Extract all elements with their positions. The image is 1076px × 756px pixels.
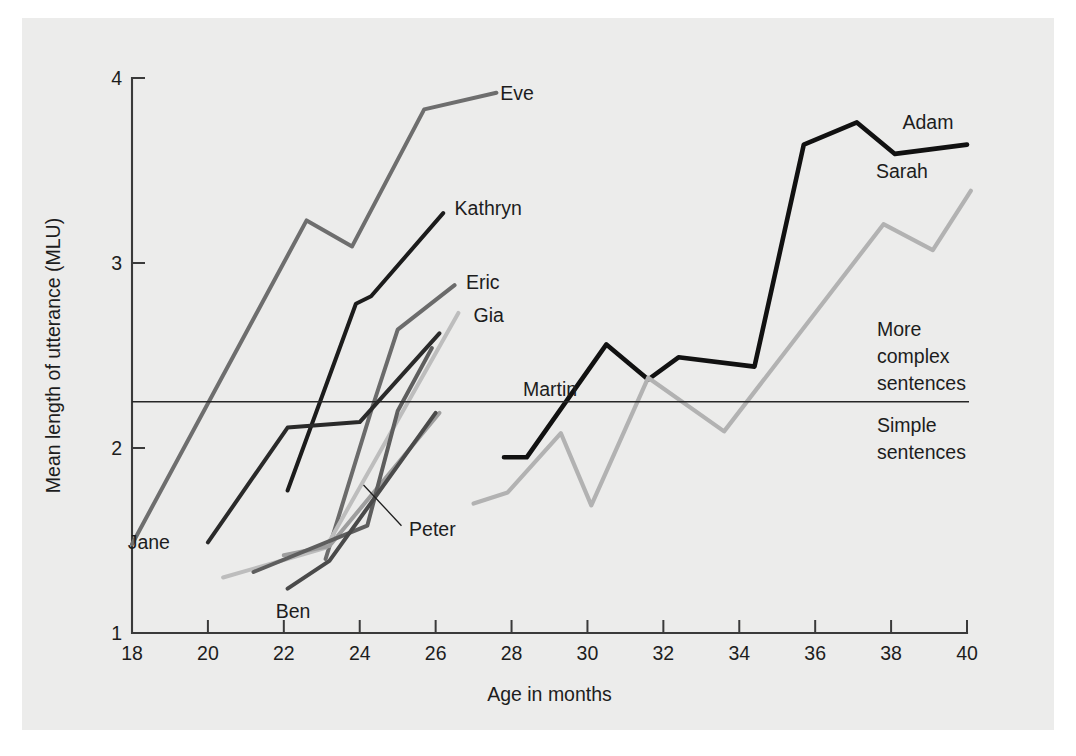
x-tick-label: 18: [121, 642, 143, 664]
series-group: [132, 93, 971, 589]
series-label-gia: Gia: [474, 304, 505, 326]
zone-label-above: More: [877, 318, 921, 340]
y-tick-label: 3: [111, 252, 122, 274]
series-label-sarah: Sarah: [876, 160, 928, 182]
x-tick-label: 34: [728, 642, 750, 664]
x-tick-label: 36: [804, 642, 826, 664]
series-label-adam: Adam: [902, 111, 953, 133]
series-line-jane: [208, 333, 440, 542]
series-line-kathryn: [288, 213, 444, 490]
x-tick-label: 28: [501, 642, 523, 664]
chart-plate: 1234182022242628303234363840Age in month…: [22, 18, 1054, 730]
x-tick-label: 32: [653, 642, 675, 664]
x-axis-title: Age in months: [487, 683, 612, 705]
series-label-kathryn: Kathryn: [455, 197, 522, 219]
chart-axes: [132, 78, 967, 633]
zone-label-below: Simple: [877, 414, 937, 436]
x-tick-label: 40: [956, 642, 978, 664]
series-label-peter: Peter: [409, 518, 456, 540]
series-label-martin: Martin: [523, 378, 577, 400]
figure-page: 1234182022242628303234363840Age in month…: [0, 0, 1076, 756]
x-tick-label: 26: [425, 642, 447, 664]
x-tick-label: 24: [349, 642, 371, 664]
y-tick-label: 4: [111, 67, 122, 89]
zone-label-above: sentences: [877, 372, 966, 394]
x-tick-label: 20: [197, 642, 219, 664]
axes-group: 1234182022242628303234363840Age in month…: [42, 67, 978, 705]
x-tick-label: 38: [880, 642, 902, 664]
series-line-peter: [254, 348, 432, 572]
y-axis-title: Mean length of utterance (MLU): [42, 218, 64, 493]
zone-label-below: sentences: [877, 441, 966, 463]
zone-label-above: complex: [877, 345, 950, 367]
x-tick-label: 30: [577, 642, 599, 664]
series-label-ben: Ben: [276, 600, 311, 622]
x-tick-label: 22: [273, 642, 295, 664]
series-label-eve: Eve: [500, 82, 534, 104]
y-tick-label: 1: [111, 622, 122, 644]
mlu-line-chart: 1234182022242628303234363840Age in month…: [22, 18, 1054, 730]
series-line-eve: [132, 93, 496, 544]
series-label-eric: Eric: [466, 271, 500, 293]
series-label-jane: Jane: [128, 531, 170, 553]
series-label-group: EveKathrynEricGiaMartinJanePeterBenAdamS…: [128, 82, 954, 622]
y-tick-label: 2: [111, 437, 122, 459]
